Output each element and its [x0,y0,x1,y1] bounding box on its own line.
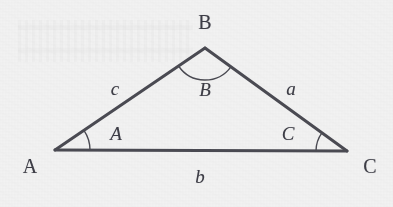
side-label-a: a [286,79,296,98]
angle-A-arc [84,130,90,150]
vertex-label-b: B [198,12,211,32]
side-label-b: b [195,167,205,186]
angle-label-b: B [199,80,211,99]
triangle-figure: A B C A B C c a b [0,0,393,207]
side-label-c: c [111,79,119,98]
vertex-label-a: A [23,156,37,176]
triangle-side-a [205,48,347,151]
angle-C-arc [316,133,322,151]
angle-label-c: C [282,124,295,143]
triangle-side-c [55,48,205,150]
angle-label-a: A [110,124,122,143]
triangle-side-b [55,150,347,151]
triangle-sides-group [55,48,347,151]
vertex-label-c: C [363,156,376,176]
